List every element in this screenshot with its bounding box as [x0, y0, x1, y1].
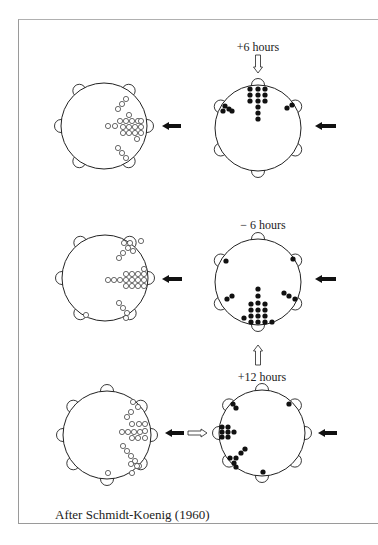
choice-dot-open [129, 271, 134, 276]
figure-caption: After Schmidt-Koenig (1960) [55, 507, 210, 523]
choice-dot-open [115, 106, 120, 111]
arena-panel-row2-right: − 6 hours [214, 218, 336, 365]
choice-dot-open [116, 255, 121, 260]
choice-dot-filled [255, 110, 260, 115]
choice-dot-filled [247, 86, 252, 91]
choice-dot-open [138, 124, 143, 129]
choice-dot-open [134, 463, 139, 468]
choice-dot-filled [233, 455, 238, 460]
choice-dot-open [120, 443, 125, 448]
choice-dot-open [117, 277, 122, 282]
choice-dot-open [105, 123, 110, 128]
choice-dot-open [132, 130, 137, 135]
choice-dot-filled [262, 98, 267, 103]
choice-dot-open [135, 435, 140, 440]
choice-dot-open [129, 421, 134, 426]
choice-dot-filled [255, 98, 260, 103]
choice-dot-filled [233, 464, 238, 469]
choice-dot-open [119, 429, 124, 434]
choice-dot-filled [281, 290, 286, 295]
choice-dot-filled [220, 108, 225, 113]
choice-dot-open [120, 250, 125, 255]
choice-dot-filled [241, 315, 246, 320]
choice-dot-filled [290, 256, 295, 261]
choice-dot-filled [289, 102, 294, 107]
choice-dot-filled [262, 307, 267, 312]
choice-dot-open [126, 130, 131, 135]
choice-dot-open [125, 429, 130, 434]
choice-dot-filled [286, 401, 291, 406]
choice-dot-open [123, 118, 128, 123]
choice-dot-filled [262, 92, 267, 97]
sun-direction-arrow-icon [315, 122, 336, 130]
choice-dot-filled [286, 293, 291, 298]
choice-dot-filled [255, 307, 260, 312]
choice-dot-open [83, 312, 88, 317]
choice-dot-open [121, 240, 126, 245]
arena-panel-row3-left [57, 385, 208, 486]
choice-dot-filled [255, 319, 260, 324]
choice-dot-open [142, 428, 147, 433]
choice-dot-filled [255, 286, 260, 291]
choice-dot-open [117, 118, 122, 123]
choice-dot-open [123, 277, 128, 282]
arena-panel-row1-left [55, 83, 182, 169]
choice-dot-filled [247, 92, 252, 97]
choice-dot-open [120, 305, 125, 310]
sun-direction-arrow-icon [318, 429, 337, 437]
expected-direction-arrow-icon [254, 345, 263, 365]
arena-circle [215, 85, 301, 171]
choice-dot-open [124, 414, 129, 419]
choice-dot-open [105, 470, 110, 475]
choice-dot-open [120, 130, 125, 135]
choice-dot-open [128, 409, 133, 414]
choice-dot-open [129, 435, 134, 440]
choice-dot-filled [284, 105, 289, 110]
choice-dot-filled [225, 434, 230, 439]
choice-dot-open [141, 271, 146, 276]
choice-dot-filled [262, 301, 267, 306]
choice-dot-filled [219, 434, 224, 439]
choice-dot-filled [262, 313, 267, 318]
choice-dot-filled [225, 429, 230, 434]
choice-dot-open [131, 429, 136, 434]
choice-dot-filled [225, 424, 230, 429]
choice-dot-filled [219, 429, 224, 434]
choice-dot-open [124, 310, 129, 315]
choice-dot-open [132, 124, 137, 129]
choice-dot-filled [255, 92, 260, 97]
choice-dot-open [126, 112, 131, 117]
choice-dot-open [128, 453, 133, 458]
choice-dot-open [141, 283, 146, 288]
arena-circle [62, 235, 148, 321]
clock-shift-label: +12 hours [238, 370, 287, 384]
choice-dot-filled [255, 86, 260, 91]
choice-dot-open [135, 283, 140, 288]
clock-shift-label: +6 hours [237, 40, 280, 54]
choice-dot-filled [248, 307, 253, 312]
choice-dot-filled [255, 313, 260, 318]
choice-dot-open [138, 118, 143, 123]
choice-dot-filled [238, 450, 243, 455]
choice-dot-open [119, 150, 124, 155]
choice-dot-filled [255, 104, 260, 109]
choice-dot-filled [255, 116, 260, 121]
choice-dot-open [127, 240, 132, 245]
choice-dot-open [123, 271, 128, 276]
clock-shift-label: − 6 hours [240, 218, 286, 232]
choice-dot-filled [229, 108, 234, 113]
choice-dot-open [129, 470, 134, 475]
sun-direction-arrow-icon [315, 275, 336, 283]
choice-dot-open [142, 421, 147, 426]
choice-dot-filled [269, 319, 274, 324]
sun-direction-arrow-icon [162, 275, 182, 283]
choice-dot-open [141, 277, 146, 282]
choice-dot-open [105, 277, 110, 282]
choice-dot-open [123, 315, 128, 320]
sun-direction-arrow-icon [165, 429, 184, 437]
choice-dot-open [128, 461, 133, 466]
choice-dot-open [138, 130, 143, 135]
choice-dot-filled [260, 469, 265, 474]
choice-dot-filled [229, 293, 234, 298]
